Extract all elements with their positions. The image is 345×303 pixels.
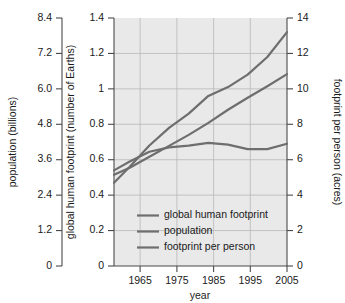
middle-axis-tick-label: 0.6 bbox=[89, 152, 104, 164]
left-axis-tick-label: 2.4 bbox=[37, 188, 52, 200]
right-axis-tick-label: 0 bbox=[297, 259, 303, 271]
middle-axis-tick-label: 0 bbox=[98, 259, 104, 271]
left-axis-tick-label: 8.4 bbox=[37, 11, 52, 23]
x-axis-title: year bbox=[190, 289, 211, 301]
chart-svg: 8.4 7.2 6.0 4.8 3.6 2.4 1.2 0 population… bbox=[0, 0, 345, 303]
legend-label-footprint-per-person: footprint per person bbox=[164, 240, 255, 252]
middle-axis-tick-label: 0.4 bbox=[89, 188, 104, 200]
right-axis-tick-label: 12 bbox=[297, 46, 309, 58]
left-axis-tick-label: 6.0 bbox=[37, 82, 52, 94]
left-axis-tick-label: 0 bbox=[46, 259, 52, 271]
left-axis-tick-label: 1.2 bbox=[37, 223, 52, 235]
x-axis-tick-label: 1975 bbox=[165, 274, 189, 286]
middle-axis-title: global human footprint (number of Earths… bbox=[64, 45, 76, 239]
x-axis-tick-label: 1965 bbox=[128, 274, 152, 286]
right-axis-tick-label: 8 bbox=[297, 117, 303, 129]
middle-axis-tick-label: 0.8 bbox=[89, 117, 104, 129]
right-axis-tick-label: 6 bbox=[297, 152, 303, 164]
x-axis-tick-label: 2005 bbox=[275, 274, 299, 286]
right-axis-title: footprint per person (acres) bbox=[332, 79, 344, 206]
right-axis-tick-label: 10 bbox=[297, 82, 309, 94]
right-axis-tick-label: 4 bbox=[297, 188, 303, 200]
x-axis-tick-label: 1995 bbox=[239, 274, 263, 286]
legend-label-population: population bbox=[164, 224, 213, 236]
legend-label-global-human-footprint: global human footprint bbox=[164, 208, 268, 220]
middle-axis-tick-label: 0.2 bbox=[89, 223, 104, 235]
right-axis-tick-label: 2 bbox=[297, 223, 303, 235]
right-axis-tick-label: 14 bbox=[297, 11, 309, 23]
middle-axis-tick-label: 1.2 bbox=[89, 46, 104, 58]
middle-axis-tick-label: 1.4 bbox=[89, 11, 104, 23]
left-axis-tick-label: 4.8 bbox=[37, 117, 52, 129]
population-footprint-chart: 8.4 7.2 6.0 4.8 3.6 2.4 1.2 0 population… bbox=[0, 0, 345, 303]
left-axis-tick-label: 3.6 bbox=[37, 152, 52, 164]
x-axis-tick-label: 1985 bbox=[202, 274, 226, 286]
left-axis-title: population (billions) bbox=[6, 97, 18, 187]
middle-axis-tick-label: 1 bbox=[98, 82, 104, 94]
left-axis-tick-label: 7.2 bbox=[37, 46, 52, 58]
